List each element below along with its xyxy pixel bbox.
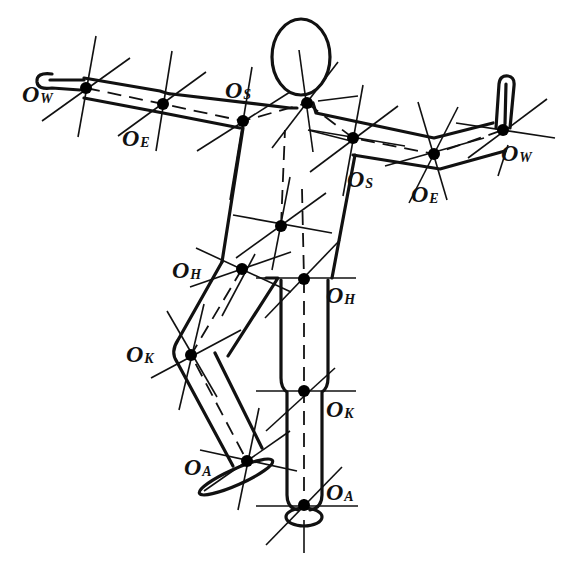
label-left-hip: OH <box>172 258 201 282</box>
joint-left-elbow <box>157 98 169 110</box>
joint-neck <box>301 97 313 109</box>
joint-right-wrist <box>497 124 509 136</box>
label-right-shoulder: OS <box>347 167 373 191</box>
label-left-shoulder: OS <box>225 78 251 102</box>
joint-right-elbow <box>428 148 440 160</box>
label-right-knee: OK <box>326 397 354 421</box>
diagram-svg <box>0 0 568 569</box>
joint-left-ankle <box>241 455 253 467</box>
joint-right-ankle <box>298 499 310 511</box>
label-right-ankle: OA <box>326 480 354 504</box>
label-right-hip: OH <box>326 283 355 307</box>
joint-left-wrist <box>80 82 92 94</box>
left-arm <box>37 74 307 128</box>
label-right-wrist: OW <box>501 141 532 165</box>
torso <box>222 128 355 279</box>
label-left-wrist: OW <box>22 82 53 106</box>
joint-right-shoulder <box>347 132 359 144</box>
label-left-elbow: OE <box>122 126 150 150</box>
joint-axes <box>42 36 555 553</box>
joint-right-knee <box>298 385 310 397</box>
joint-right-hip <box>298 273 310 285</box>
body-joint-diagram: OW OE OS OS OE OW OH OH OK OA OK OA <box>0 0 568 569</box>
joint-left-hip <box>236 263 248 275</box>
joint-left-knee <box>185 349 197 361</box>
label-left-ankle: OA <box>184 455 212 479</box>
right-arm <box>307 76 514 169</box>
label-left-knee: OK <box>126 342 154 366</box>
joint-left-shoulder <box>237 115 249 127</box>
joint-torso-center <box>275 220 287 232</box>
label-right-elbow: OE <box>411 182 439 206</box>
